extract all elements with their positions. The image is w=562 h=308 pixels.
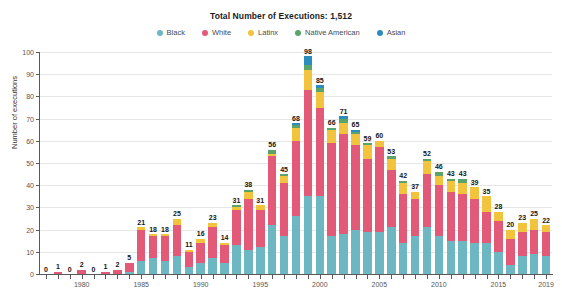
bar-segment-white [542,232,551,256]
bar-stack [435,172,444,274]
bar-segment-latinx [327,130,336,143]
bar-group[interactable]: 20 [506,52,515,274]
y-axis-tick-label: 70 [14,115,34,122]
bar-stack [185,250,194,274]
bar-stack [447,179,456,274]
bar-group[interactable]: 11 [185,52,194,274]
bar-group[interactable]: 18 [149,52,158,274]
x-axis-tick-mark [177,275,178,279]
bar-group[interactable]: 31 [256,52,265,274]
y-axis-tick-label: 30 [14,204,34,211]
bar-segment-white [208,227,217,258]
bar-segment-white [518,232,527,256]
bar-group[interactable]: 60 [375,52,384,274]
bar-group[interactable]: 56 [268,52,277,274]
bar-group[interactable]: 53 [387,52,396,274]
bar-segment-latinx [494,212,503,221]
legend-item-white[interactable]: White [202,28,231,37]
bar-segment-black [327,236,336,274]
bar-segment-black [363,232,372,274]
bar-group[interactable]: 46 [435,52,444,274]
bar-segment-black [518,256,527,274]
chart-title: Total Number of Executions: 1,512 [0,11,562,21]
bar-group[interactable]: 68 [292,52,301,274]
bar-segment-black [292,216,301,274]
x-axis-tick-mark [70,275,71,279]
bar-group[interactable]: 25 [530,52,539,274]
bar-stack [137,227,146,274]
legend-item-native-american[interactable]: Native American [295,28,360,37]
bar-segment-latinx [411,192,420,199]
y-axis-tick-label: 60 [14,137,34,144]
x-axis-tick-mark [296,275,297,279]
chart-legend: BlackWhiteLatinxNative AmericanAsian [0,28,562,37]
bar-group[interactable]: 28 [494,52,503,274]
legend-item-latinx[interactable]: Latinx [248,28,278,37]
bar-group[interactable]: 31 [232,52,241,274]
bar-stack [530,219,539,274]
bar-group[interactable]: 14 [220,52,229,274]
bar-segment-black [542,256,551,274]
bar-stack [506,230,515,274]
legend-item-black[interactable]: Black [157,28,185,37]
bar-stack [363,143,372,274]
bar-segment-white [113,270,122,274]
bar-group[interactable]: 66 [327,52,336,274]
bar-segment-white [351,145,360,229]
bar-stack [518,223,527,274]
bar-group[interactable]: 23 [518,52,527,274]
bar-segment-black [506,265,515,274]
x-axis-tick-mark [213,275,214,279]
bar-stack [149,234,158,274]
bar-segment-white [482,212,491,243]
bar-stack [351,130,360,274]
bar-segment-latinx [292,128,301,141]
bar-group[interactable]: 1 [54,52,63,274]
bar-group[interactable]: 1 [101,52,110,274]
bar-segment-black [149,258,158,274]
bar-segment-white [185,252,194,268]
bar-group[interactable]: 85 [316,52,325,274]
bar-segment-latinx [387,159,396,170]
bar-group[interactable]: 71 [339,52,348,274]
bar-group[interactable]: 0 [65,52,74,274]
bar-group[interactable]: 65 [351,52,360,274]
bar-segment-latinx [280,176,289,183]
bar-segment-latinx [518,223,527,232]
bar-segment-white [280,183,289,236]
x-axis-tick-mark [58,275,59,279]
bar-stack [208,223,217,274]
bar-group[interactable]: 39 [470,52,479,274]
bar-group[interactable]: 38 [244,52,253,274]
x-axis-tick-mark [367,275,368,279]
bar-segment-black [447,241,456,274]
bar-segment-black [256,247,265,274]
bar-group[interactable]: 43 [447,52,456,274]
bar-group[interactable]: 59 [363,52,372,274]
bar-group[interactable]: 43 [458,52,467,274]
legend-item-label: White [212,28,231,37]
x-axis-tick-mark [475,275,476,279]
bar-group[interactable]: 45 [280,52,289,274]
bar-group[interactable]: 0 [89,52,98,274]
bar-group[interactable]: 21 [137,52,146,274]
bar-stack [375,141,384,274]
bar-group[interactable]: 18 [161,52,170,274]
bar-group[interactable]: 2 [113,52,122,274]
bar-group[interactable]: 0 [42,52,51,274]
bar-segment-black [435,236,444,274]
legend-item-asian[interactable]: Asian [377,28,406,37]
bar-group[interactable]: 42 [399,52,408,274]
bar-group[interactable]: 2 [77,52,86,274]
bar-group[interactable]: 16 [196,52,205,274]
bar-group[interactable]: 35 [482,52,491,274]
bar-group[interactable]: 5 [125,52,134,274]
bar-group[interactable]: 22 [542,52,551,274]
bar-group[interactable]: 98 [304,52,313,274]
bar-stack [232,205,241,274]
bar-segment-white [375,147,384,231]
x-axis-tick-mark [82,275,83,279]
x-axis-tick-mark [260,275,261,279]
bar-group[interactable]: 37 [411,52,420,274]
bar-stack [161,234,170,274]
